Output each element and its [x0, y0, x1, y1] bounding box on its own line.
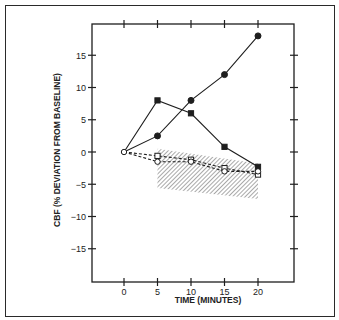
chart: 05101520 151050−5−10−15 TIME (MINUTES) C… [0, 0, 339, 320]
x-tick-label: 0 [121, 287, 126, 297]
y-axis-title: CBF (% DEVIATION FROM BASELINE) [52, 73, 62, 227]
data-point-square [188, 111, 193, 116]
series-line [124, 36, 258, 152]
data-point-square [222, 144, 227, 149]
y-tick-label: 5 [81, 115, 86, 125]
y-tick-label: −15 [71, 244, 86, 254]
data-point-circle [255, 33, 261, 39]
y-tick-label: 10 [76, 83, 86, 93]
data-point-circle [188, 159, 193, 164]
hatched-band-shape [158, 149, 259, 199]
y-tick-label: −5 [76, 180, 86, 190]
data-point-circle [188, 97, 194, 103]
series-filled-circle [124, 33, 261, 152]
y-axis-ticks: 151050−5−10−15 [71, 51, 298, 255]
data-point-square [155, 153, 160, 158]
y-tick-label: −10 [71, 212, 86, 222]
x-axis-title: TIME (MINUTES) [175, 295, 242, 305]
y-tick-label: 15 [76, 51, 86, 61]
data-point-circle [155, 133, 161, 139]
x-tick-label: 20 [253, 287, 263, 297]
data-point-square [155, 98, 160, 103]
x-tick-label: 5 [155, 287, 160, 297]
data-point-circle [222, 72, 228, 78]
data-point-circle [255, 169, 260, 174]
data-point-circle [155, 159, 160, 164]
y-tick-label: 0 [81, 148, 86, 158]
hatched-range-band [158, 149, 259, 199]
data-point-circle [222, 169, 227, 174]
origin-point [121, 149, 126, 154]
